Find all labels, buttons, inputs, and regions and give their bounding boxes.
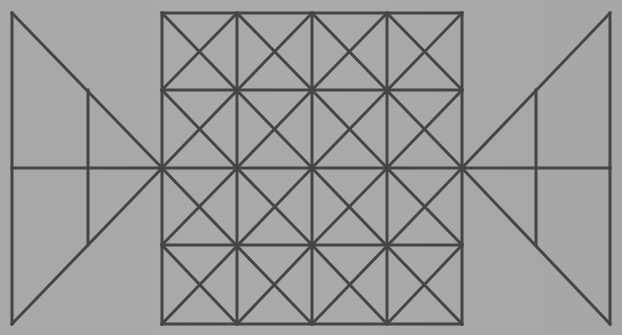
geometric-figure	[0, 0, 622, 335]
diagram-canvas	[0, 0, 622, 335]
right-triangle	[462, 13, 610, 324]
left-triangle	[12, 13, 162, 324]
